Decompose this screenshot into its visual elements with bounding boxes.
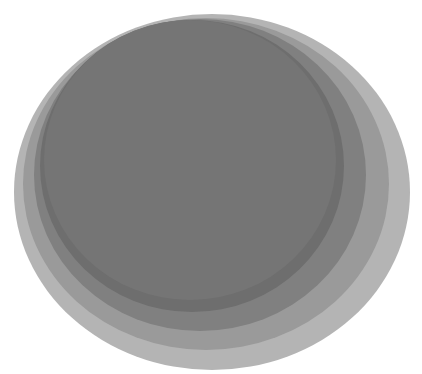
image-canvas [0,0,422,374]
disc-stack [0,0,422,374]
core-rim-disc [44,20,336,300]
